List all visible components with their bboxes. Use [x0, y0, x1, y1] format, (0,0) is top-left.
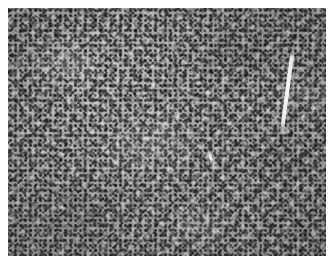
tissue-base-layer — [8, 8, 326, 256]
hyperchromatic-focus — [198, 36, 203, 41]
micrograph-figure — [0, 0, 333, 262]
hyperchromatic-focus — [112, 19, 116, 23]
hyperchromatic-focus — [67, 168, 71, 172]
hyperchromatic-focus — [300, 224, 305, 229]
hyperchromatic-focus — [232, 118, 237, 123]
hyperchromatic-focus — [252, 196, 256, 200]
micrograph-image — [8, 8, 326, 256]
hyperchromatic-focus — [172, 183, 177, 188]
hyperchromatic-focus — [44, 28, 49, 33]
hyperchromatic-focus — [31, 96, 36, 101]
hyperchromatic-focus — [287, 133, 292, 138]
hyperchromatic-focus — [268, 60, 272, 64]
hyperchromatic-focus — [128, 124, 132, 128]
hyperchromatic-focus — [96, 221, 101, 226]
hyperchromatic-focus — [205, 238, 209, 242]
